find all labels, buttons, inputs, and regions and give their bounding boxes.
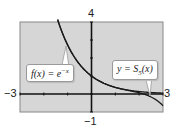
s-label-pre: y = S — [117, 63, 138, 74]
f-exponent: −x — [61, 67, 69, 75]
x-max-label: 3 — [164, 87, 170, 99]
f-label: f(x) = e — [31, 68, 61, 79]
callout-f: f(x) = e−x — [26, 64, 74, 82]
y-min-label: −1 — [84, 115, 97, 127]
s-label-post: (x) — [142, 63, 153, 74]
callout-s5: y = S5(x) — [112, 60, 158, 80]
x-min-label: −3 — [4, 87, 17, 99]
y-max-label: 4 — [88, 7, 94, 19]
